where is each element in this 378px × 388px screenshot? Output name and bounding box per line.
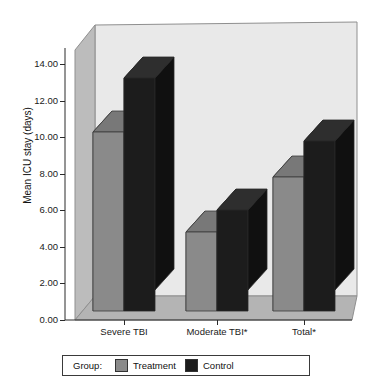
y-tick-label: 12.00 — [34, 96, 58, 106]
legend-swatch-control — [185, 359, 198, 372]
x-tick-label-moderate-tbi: Moderate TBI* — [186, 326, 247, 337]
y-tickmark — [60, 247, 65, 248]
bar-severe-tbi-control — [124, 57, 174, 311]
y-tick-label: 10.00 — [34, 132, 58, 142]
x-tick-label-severe-tbi: Severe TBI — [100, 326, 147, 337]
y-tickmark — [60, 137, 65, 138]
bar-chart: Mean ICU stay (days) 14.00 12.00 10.00 8… — [0, 0, 378, 388]
x-tickmark — [217, 320, 218, 325]
y-tickmark — [60, 174, 65, 175]
y-tick-label: 14.00 — [34, 59, 58, 69]
legend-swatch-treatment — [115, 359, 128, 372]
x-tickmark — [304, 320, 305, 325]
x-tickmark — [124, 320, 125, 325]
legend-title: Group: — [73, 360, 102, 371]
y-tickmark — [60, 64, 65, 65]
y-tick-label: 4.00 — [40, 242, 59, 252]
y-tickmark — [60, 320, 65, 321]
x-tick-label-total: Total* — [292, 326, 316, 337]
legend-label-treatment: Treatment — [133, 360, 176, 371]
y-tick-label: 2.00 — [40, 278, 59, 288]
legend-item-treatment: Treatment — [115, 359, 176, 372]
y-tickmark — [60, 283, 65, 284]
legend-label-control: Control — [203, 360, 234, 371]
y-tick-label: 6.00 — [40, 205, 59, 215]
y-tick-label: 0.00 — [40, 315, 59, 325]
y-tick-label: 8.00 — [40, 169, 59, 179]
legend-item-control: Control — [185, 359, 234, 372]
legend: Group: Treatment Control — [62, 355, 310, 376]
y-tickmark — [60, 101, 65, 102]
y-axis-ticks: 14.00 12.00 10.00 8.00 6.00 4.00 2.00 0.… — [0, 0, 58, 388]
left-side-wall — [75, 25, 95, 320]
y-tickmark — [60, 210, 65, 211]
